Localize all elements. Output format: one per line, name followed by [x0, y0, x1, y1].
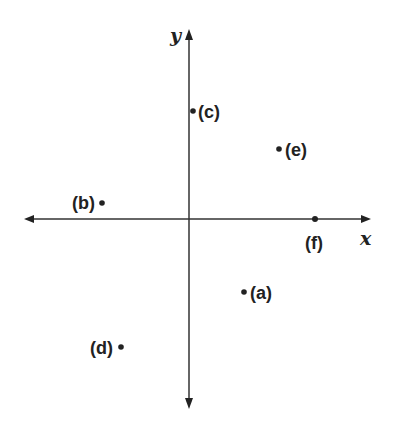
- point-d-dot: [118, 344, 124, 350]
- point-a-label: (a): [250, 283, 272, 303]
- point-e-label: (e): [285, 140, 307, 160]
- y-axis-label: y: [169, 24, 183, 46]
- point-f: (f): [305, 216, 323, 253]
- point-b: (b): [72, 193, 105, 213]
- point-b-label: (b): [72, 193, 95, 213]
- point-c-dot: [190, 108, 196, 114]
- x-axis-right-arrow-icon: [361, 215, 371, 223]
- point-a-dot: [241, 289, 247, 295]
- point-d: (d): [90, 338, 124, 358]
- point-c-label: (c): [198, 102, 220, 122]
- x-axis-label: x: [359, 227, 372, 249]
- point-f-dot: [312, 216, 318, 222]
- point-f-label: (f): [305, 233, 323, 253]
- x-axis-left-arrow-icon: [24, 215, 34, 223]
- x-axis: [24, 215, 371, 223]
- point-c: (c): [190, 102, 220, 122]
- point-e: (e): [276, 140, 307, 160]
- point-d-label: (d): [90, 338, 113, 358]
- point-a: (a): [241, 283, 272, 303]
- y-axis-down-arrow-icon: [185, 398, 193, 409]
- point-b-dot: [99, 200, 105, 206]
- y-axis-up-arrow-icon: [185, 29, 193, 40]
- coordinate-plane: y x (c) (e) (b) (f) (a) (d): [0, 0, 393, 427]
- point-e-dot: [276, 146, 282, 152]
